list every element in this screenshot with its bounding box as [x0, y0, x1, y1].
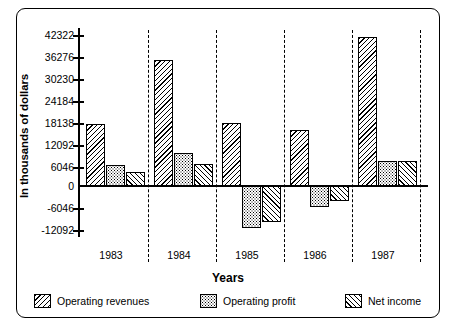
legend-item-operating-revenues: Operating revenues: [34, 294, 149, 308]
legend-label: Operating profit: [223, 295, 295, 307]
chart-legend: Operating revenues Operating profit Net …: [34, 292, 430, 310]
legend-item-operating-profit: Operating profit: [200, 294, 295, 308]
chart-frame: [16, 8, 440, 318]
dot-stipple-swatch-icon: [200, 294, 217, 308]
legend-item-net-income: Net income: [345, 294, 421, 308]
legend-label: Net income: [368, 295, 421, 307]
forwardslash-hatch-swatch-icon: [345, 294, 362, 308]
backslash-hatch-swatch-icon: [34, 294, 51, 308]
legend-label: Operating revenues: [57, 295, 149, 307]
